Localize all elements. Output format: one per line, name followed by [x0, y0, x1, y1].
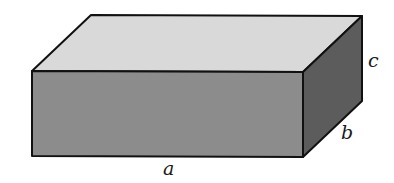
- label-a: a: [163, 157, 174, 179]
- box-diagram: a b c: [0, 0, 394, 183]
- label-b: b: [341, 121, 353, 143]
- front-face: [32, 71, 303, 157]
- label-c: c: [368, 49, 379, 71]
